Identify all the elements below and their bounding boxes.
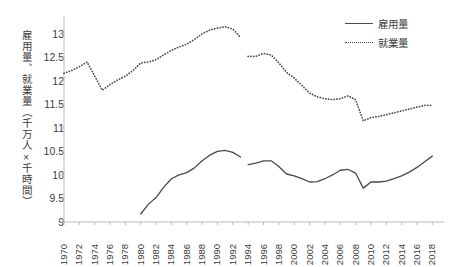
x-axis-tick-label: 1998 xyxy=(274,244,284,265)
chart-legend: 雇用量 就業量 xyxy=(345,14,408,52)
x-axis-tick-label: 2016 xyxy=(412,244,422,265)
x-axis-tick-label: 2002 xyxy=(305,244,315,265)
x-axis-tick-label: 1978 xyxy=(120,244,130,265)
x-axis-tick-label: 1976 xyxy=(105,244,115,265)
legend-item-employment: 雇用量 xyxy=(345,14,408,33)
legend-item-workers: 就業量 xyxy=(345,33,408,52)
x-axis-tick-label: 1994 xyxy=(243,244,253,265)
data-series-line xyxy=(248,54,432,121)
x-axis-tick-label: 1972 xyxy=(74,244,84,265)
x-axis-tick-label: 2004 xyxy=(320,244,330,265)
x-axis-tick-label: 2018 xyxy=(427,244,437,265)
x-axis-tick-label: 2006 xyxy=(335,244,345,265)
x-axis-tick-label: 1988 xyxy=(197,244,207,265)
legend-label: 就業量 xyxy=(378,35,408,50)
x-axis-tick-label: 1980 xyxy=(136,244,146,265)
x-axis-tick-label: 1992 xyxy=(228,244,238,265)
x-axis-tick-label: 2008 xyxy=(351,244,361,265)
x-axis-tick-label: 1970 xyxy=(59,244,69,265)
legend-label: 雇用量 xyxy=(378,16,408,31)
x-axis-tick-label: 2012 xyxy=(381,244,391,265)
legend-swatch-solid-line-icon xyxy=(345,19,373,29)
legend-swatch-dotted-line-icon xyxy=(345,38,373,48)
x-axis-tick-label: 1986 xyxy=(182,244,192,265)
x-axis-tick-label: 1996 xyxy=(259,244,269,265)
data-series-line xyxy=(141,150,241,214)
x-axis-tick-label: 2010 xyxy=(366,244,376,265)
x-axis-tick-label: 1990 xyxy=(212,244,222,265)
chart-container: 雇用量、就業量（千万人×千時間） 99.51010.51111.51212.51… xyxy=(0,0,451,267)
x-axis-tick-label: 1982 xyxy=(151,244,161,265)
data-series-line xyxy=(64,27,240,91)
x-axis-tick-label: 2000 xyxy=(289,244,299,265)
x-axis-tick-label: 1984 xyxy=(166,244,176,265)
x-axis-tick-label: 2014 xyxy=(397,244,407,265)
data-series-line xyxy=(248,156,432,188)
x-axis-tick-label: 1974 xyxy=(90,244,100,265)
